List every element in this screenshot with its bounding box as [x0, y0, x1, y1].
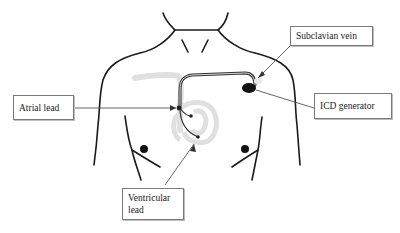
icd-generator-text: ICD generator: [320, 101, 375, 111]
icd-generator-shape: [242, 83, 256, 93]
right-nipple: [241, 145, 249, 153]
ventricular-lead-text: Ventricular lead: [128, 193, 170, 215]
subclavian-vein-text: Subclavian vein: [296, 31, 357, 41]
subclavian-vein-label: Subclavian vein: [290, 26, 373, 46]
atrial-lead-label: Atrial lead: [13, 95, 74, 120]
atrial-lead-tip: [177, 106, 182, 111]
torso-outline: [94, 13, 300, 180]
ventricular-electrode: [196, 135, 200, 139]
left-nipple: [140, 145, 148, 153]
icd-generator-label: ICD generator: [314, 93, 392, 119]
ventricular-lead-label: Ventricular lead: [122, 188, 184, 220]
atrial-electrode: [189, 114, 193, 118]
atrial-lead-text: Atrial lead: [19, 103, 59, 113]
